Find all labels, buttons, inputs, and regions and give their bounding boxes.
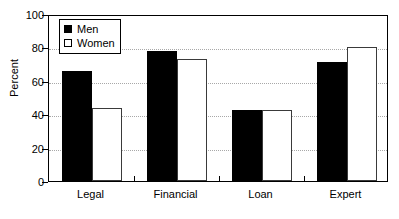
- y-axis-tick-label: 40: [4, 110, 44, 121]
- x-axis-tick-mark: [134, 176, 135, 181]
- bar-expert-men: [317, 62, 347, 181]
- bar-loan-women: [262, 110, 292, 181]
- x-axis-label-expert: Expert: [330, 188, 362, 200]
- bar-chart-figure: Percent 020406080100 Men Women LegalFina…: [0, 0, 399, 219]
- x-axis-label-financial: Financial: [153, 188, 197, 200]
- legend-item-women: Women: [64, 36, 115, 50]
- y-axis-tick-label: 0: [4, 177, 44, 188]
- legend-item-men: Men: [64, 22, 115, 36]
- legend-label-men: Men: [77, 24, 98, 35]
- legend-swatch-women-icon: [64, 39, 72, 47]
- x-axis-tick-mark: [219, 176, 220, 181]
- y-axis-tick-label: 100: [4, 10, 44, 21]
- bar-financial-women: [177, 59, 207, 181]
- y-axis-tick-label: 80: [4, 43, 44, 54]
- bar-expert-women: [347, 47, 377, 181]
- y-axis-tick-label: 20: [4, 144, 44, 155]
- bar-loan-men: [232, 110, 262, 181]
- chart-legend: Men Women: [59, 19, 121, 54]
- bar-legal-women: [92, 108, 122, 181]
- x-axis-label-loan: Loan: [248, 188, 272, 200]
- bar-financial-men: [147, 51, 177, 181]
- y-axis-tick-label: 60: [4, 77, 44, 88]
- legend-swatch-men-icon: [64, 25, 72, 33]
- bar-legal-men: [62, 71, 92, 181]
- y-axis-tick-mark: [42, 182, 48, 183]
- plot-area: Men Women: [48, 15, 388, 182]
- x-axis-label-legal: Legal: [77, 188, 104, 200]
- legend-label-women: Women: [77, 38, 115, 49]
- x-axis-tick-mark: [304, 176, 305, 181]
